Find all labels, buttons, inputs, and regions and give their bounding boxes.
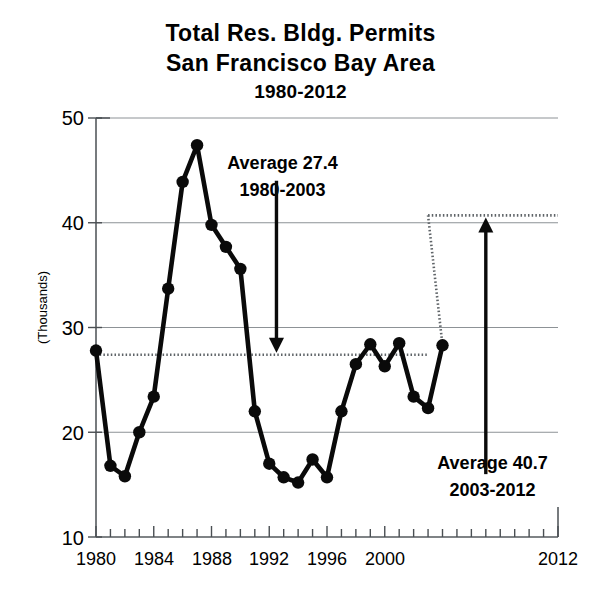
grid-lines [96, 118, 558, 432]
chart-plot-area [0, 0, 601, 604]
y-axis-tick-marks [88, 118, 102, 537]
x-axis-tick-marks [96, 526, 558, 537]
data-point-markers [90, 139, 449, 489]
chart-figure: Total Res. Bldg. Permits San Francisco B… [0, 0, 601, 604]
